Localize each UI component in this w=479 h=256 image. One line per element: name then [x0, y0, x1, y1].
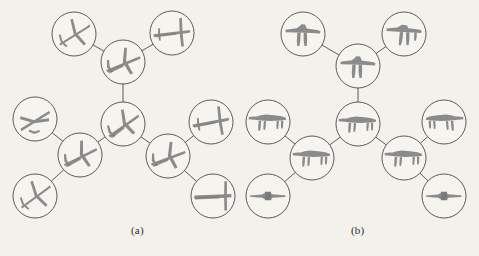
edge-a4-a6	[98, 137, 105, 142]
panel-a-caption: (a)	[131, 224, 144, 236]
edge-b1-b2	[322, 45, 339, 55]
edge-a1-a2	[93, 45, 104, 51]
node-circle	[382, 136, 426, 180]
animal-center[interactable]	[336, 102, 380, 146]
node-circle	[422, 100, 466, 144]
airplane-center[interactable]	[101, 102, 145, 146]
animal-bottom-left[interactable]	[246, 174, 290, 218]
node-circle	[281, 12, 325, 56]
edge-a6-a5	[52, 133, 63, 142]
edge-b6-b7	[285, 172, 296, 181]
figure-root: (a) (b)	[0, 0, 479, 256]
airplane-bottom-left[interactable]	[12, 174, 58, 218]
animal-bottom-right[interactable]	[422, 174, 466, 218]
node-circle	[290, 136, 334, 180]
object-viewpoint-graph	[0, 0, 479, 256]
animal-lower-left[interactable]	[290, 136, 334, 180]
animal-upper-center[interactable]	[336, 44, 380, 88]
panel-b-caption: (b)	[351, 224, 364, 236]
edge-a8-a9	[185, 136, 193, 143]
edge-a2-a3	[142, 44, 153, 51]
airplane-top-right[interactable]	[150, 11, 194, 55]
airplane-top-left[interactable]	[52, 12, 97, 56]
animal-top-right[interactable]	[382, 12, 426, 56]
airplane-bottom-right[interactable]	[191, 174, 235, 218]
animal-mid-right[interactable]	[422, 100, 466, 144]
edge-a4-a8	[141, 137, 150, 144]
edge-b8-b10	[420, 173, 428, 181]
edge-b6-b5	[285, 136, 295, 144]
edge-b4-b6	[330, 137, 341, 145]
animal-top-left[interactable]	[281, 12, 325, 56]
node-circle	[246, 100, 290, 144]
edge-b2-b3	[376, 47, 386, 54]
node-circle	[336, 44, 380, 88]
airplane-upper-center[interactable]	[101, 40, 145, 84]
node-circle	[13, 97, 57, 141]
edge-b8-b9	[420, 137, 427, 144]
airplane-mid-left[interactable]	[13, 97, 57, 141]
edge-a8-a10	[184, 171, 196, 182]
edge-b4-b8	[376, 137, 387, 145]
animal-mid-left[interactable]	[246, 100, 290, 144]
animal-lower-right[interactable]	[382, 136, 426, 180]
airplane-lower-right[interactable]	[146, 134, 190, 178]
edge-a6-a7	[51, 170, 63, 181]
node-circle	[382, 12, 426, 56]
airplane-mid-right[interactable]	[189, 100, 233, 144]
graph-nodes-layer	[12, 11, 466, 218]
node-circle	[336, 102, 380, 146]
airplane-lower-left[interactable]	[58, 133, 102, 177]
